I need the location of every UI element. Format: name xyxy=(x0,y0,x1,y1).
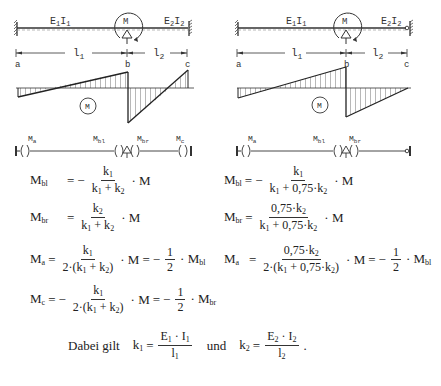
formula-right-ma: Ma = 0,75·k22·(k1 + 0,75·k2) · M = − 12 … xyxy=(224,244,431,275)
svg-text:c: c xyxy=(404,60,409,70)
span-dimensions: l1 l2 a b c xyxy=(236,47,409,70)
svg-text:l1: l1 xyxy=(73,47,85,61)
svg-text:Mbl: Mbl xyxy=(313,134,325,145)
svg-text:Mbl: Mbl xyxy=(93,134,105,145)
svg-text:c: c xyxy=(185,60,190,70)
and-word: und xyxy=(207,339,227,352)
svg-text:M: M xyxy=(123,17,128,27)
fixed-support-left-icon xyxy=(235,20,238,36)
fixed-support-left-icon xyxy=(14,20,17,36)
formula-left-mbl: Mbl = − k1k1 + k2 · M xyxy=(30,165,151,196)
joint-model-left: Ma Mbl Mbr Mc xyxy=(16,134,191,158)
svg-text:M: M xyxy=(85,102,90,111)
svg-text:E2I2: E2I2 xyxy=(164,16,184,28)
definition-k1-k2: Dabei gilt k1 = E1 · I1l1 und k2 = E2 · … xyxy=(68,330,307,361)
left-beam-system: E1I1 E2I2 M l1 l2 a b c xyxy=(14,13,194,158)
joint-model-right: Ma Mbl Mbr xyxy=(237,134,410,158)
formula-right-mbl: Mbl = − k1k1 + 0,75·k2 · M xyxy=(224,165,353,196)
right-beam-system: E1I1 E2I2 M l1 l2 a b c xyxy=(235,13,413,158)
svg-text:Ma: Ma xyxy=(28,134,37,145)
svg-text:l2: l2 xyxy=(153,47,165,61)
svg-text:E2I2: E2I2 xyxy=(381,16,401,28)
svg-text:E1I1: E1I1 xyxy=(50,16,70,28)
svg-text:Ma: Ma xyxy=(248,134,257,145)
svg-text:Mbr: Mbr xyxy=(349,134,361,145)
svg-text:E1I1: E1I1 xyxy=(286,16,306,28)
fixed-support-right-icon xyxy=(189,20,192,36)
moment-diagram-right: M xyxy=(237,67,411,117)
svg-text:a: a xyxy=(236,60,242,70)
pinned-support-right-icon xyxy=(405,20,413,36)
svg-text:b: b xyxy=(125,60,130,70)
definition-intro: Dabei gilt xyxy=(68,339,120,352)
formula-left-mc: Mc = − k12·(k1 + k2) · M = − 12 · Mbr xyxy=(30,284,216,315)
svg-text:M: M xyxy=(342,17,347,27)
formula-left-mbr: Mbr = k2k1 + k2 · M xyxy=(30,202,140,233)
svg-text:Mc: Mc xyxy=(176,134,185,145)
svg-text:M: M xyxy=(317,101,322,110)
formula-left-ma: Ma = k12·(k1 + k2) · M = − 12 · Mbl xyxy=(30,244,205,275)
svg-text:l1: l1 xyxy=(291,47,303,61)
span-dimensions: l1 l2 a b c xyxy=(15,47,190,70)
formula-right-mbr: Mbr = 0,75·k2k1 + 0,75·k2 · M xyxy=(224,202,343,233)
moment-diagram-left: M xyxy=(16,70,194,123)
svg-text:l2: l2 xyxy=(372,47,384,61)
svg-text:Mbr: Mbr xyxy=(137,134,149,145)
svg-text:a: a xyxy=(15,60,21,70)
